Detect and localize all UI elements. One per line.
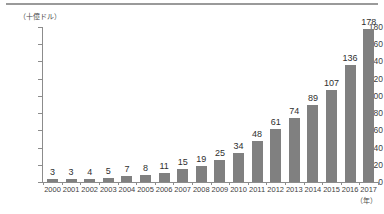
bar <box>289 118 300 182</box>
bar-value-label: 136 <box>335 54 365 63</box>
y-axis-unit-label: （十億ドル） <box>19 12 61 21</box>
bar <box>159 173 170 182</box>
bar <box>103 178 114 182</box>
bar-value-label: 74 <box>279 107 309 116</box>
bar <box>252 141 263 182</box>
bar <box>270 129 281 182</box>
bar-value-label: 25 <box>205 149 235 158</box>
x-axis-unit-label: （年） <box>356 197 377 205</box>
bar-value-label: 89 <box>298 94 328 103</box>
y-axis-tick <box>38 165 42 166</box>
bar <box>345 65 356 182</box>
y-axis-line <box>42 27 43 183</box>
y-axis-tick <box>38 61 42 62</box>
bar-value-label: 107 <box>317 79 347 88</box>
bar-value-label: 34 <box>224 142 254 151</box>
bar <box>84 179 95 182</box>
x-axis-tick <box>378 182 379 185</box>
x-axis-tick-label: 2017 <box>354 186 384 194</box>
bar <box>177 169 188 182</box>
bar <box>140 175 151 182</box>
bar <box>66 179 77 182</box>
y-axis-tick <box>38 27 42 28</box>
bar <box>121 176 132 182</box>
top-divider-rule <box>6 3 378 5</box>
y-axis-tick <box>38 44 42 45</box>
bar-value-label: 178 <box>354 18 384 27</box>
bar <box>363 29 374 182</box>
bar <box>307 105 318 182</box>
bar <box>233 153 244 182</box>
y-axis-tick <box>38 79 42 80</box>
bar <box>47 179 58 182</box>
y-axis-tick <box>38 130 42 131</box>
bar-value-label: 61 <box>261 118 291 127</box>
bar <box>326 90 337 182</box>
bar <box>214 160 225 182</box>
y-axis-tick <box>38 182 42 183</box>
bar-value-label: 48 <box>242 130 272 139</box>
y-axis-tick <box>38 148 42 149</box>
bar <box>196 166 207 182</box>
y-axis-tick <box>38 113 42 114</box>
y-axis-tick <box>38 96 42 97</box>
